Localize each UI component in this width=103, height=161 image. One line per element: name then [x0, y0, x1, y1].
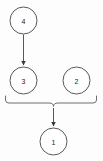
diagram-svg: 4 3 2 1 [0, 0, 103, 161]
node-1-label: 1 [52, 139, 56, 146]
group-brace-path [6, 96, 97, 107]
node-3[interactable]: 3 [10, 67, 37, 94]
node-2[interactable]: 2 [63, 67, 90, 94]
node-4[interactable]: 4 [10, 7, 37, 34]
group-brace [6, 96, 97, 107]
node-1[interactable]: 1 [40, 128, 67, 155]
node-4-label: 4 [22, 18, 26, 25]
node-2-label: 2 [75, 78, 79, 85]
diagram-canvas: 4 3 2 1 [0, 0, 103, 161]
node-3-label: 3 [22, 78, 26, 85]
